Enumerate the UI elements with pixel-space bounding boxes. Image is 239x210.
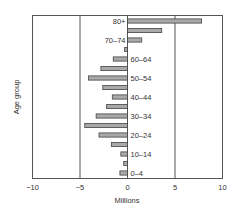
bar-70-74 <box>128 38 142 42</box>
x-tick-label: 5 <box>173 183 177 192</box>
bar-80+ <box>128 19 202 23</box>
category-label: 0–4 <box>131 169 144 178</box>
x-tick-label: 10 <box>218 183 226 192</box>
population-change-bar-chart: 80+70–7460–6450–5440–4430–3420–2410–140–… <box>0 0 239 210</box>
bar-15-19 <box>111 142 127 146</box>
category-label: 10–14 <box>131 150 152 159</box>
y-axis-title: Age group <box>12 80 21 115</box>
bar-10-14 <box>121 152 128 156</box>
x-tick-label: −5 <box>76 183 85 192</box>
category-label: 80+ <box>113 17 126 26</box>
bar-65-69 <box>125 47 128 51</box>
bar-5-9 <box>124 161 128 165</box>
bar-75-79 <box>128 28 162 32</box>
x-tick-label: 0 <box>125 183 129 192</box>
bar-45-49 <box>103 85 128 89</box>
bar-60-64 <box>113 57 127 61</box>
bar-20-24 <box>99 133 128 137</box>
bar-35-39 <box>107 104 128 108</box>
x-axis-title: Millions <box>114 196 139 205</box>
x-tick-labels: −10−50510 <box>26 183 227 192</box>
category-label: 50–54 <box>131 74 152 83</box>
bar-55-59 <box>101 66 128 70</box>
category-label: 40–44 <box>131 93 152 102</box>
category-label: 60–64 <box>131 55 152 64</box>
category-label: 20–24 <box>131 131 152 140</box>
bar-30-34 <box>96 114 127 118</box>
category-label: 30–34 <box>131 112 152 121</box>
category-label: 70–74 <box>105 36 126 45</box>
bar-40-44 <box>112 95 127 99</box>
x-tick-label: −10 <box>26 183 39 192</box>
bar-25-29 <box>85 123 128 127</box>
bar-50-54 <box>89 76 128 80</box>
bar-0-4 <box>120 171 128 175</box>
